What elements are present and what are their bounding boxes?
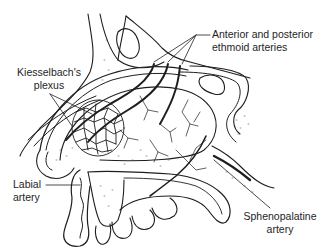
frontal-sinus	[117, 29, 140, 59]
labial-artery-vessel	[80, 178, 83, 238]
nasal-artery-diagram: Anterior and posterior ethmoid arteries …	[0, 0, 326, 251]
leader-lines	[46, 35, 270, 208]
label-labial-line-1: Labial	[13, 178, 41, 191]
label-sphenopalatine-line-2: artery	[240, 223, 320, 236]
label-kiesselbach-plexus: Kiesselbach's plexus	[8, 66, 90, 91]
sphenoid-sinus	[199, 75, 224, 94]
label-sphenopalatine-line-1: Sphenopalatine	[240, 210, 320, 223]
alar-fold	[46, 152, 52, 170]
upper-lip	[64, 170, 90, 246]
pharyngeal-wall	[214, 156, 250, 180]
label-labial-line-2: artery	[13, 191, 41, 204]
label-ethmoid-line-2: ethmoid arteries	[212, 41, 313, 54]
label-ethmoid-line-1: Anterior and posterior	[212, 28, 313, 41]
label-sphenopalatine-artery: Sphenopalatine artery	[240, 210, 320, 235]
label-kiesselbach-line-1: Kiesselbach's	[8, 66, 90, 79]
label-kiesselbach-line-2: plexus	[8, 79, 90, 92]
nasal-vestibule	[37, 150, 74, 178]
incisor-bone	[88, 172, 124, 226]
label-ethmoid-arteries: Anterior and posterior ethmoid arteries	[212, 28, 313, 53]
teeth	[95, 198, 176, 244]
soft-palate	[212, 146, 274, 188]
label-labial-artery: Labial artery	[13, 178, 41, 203]
